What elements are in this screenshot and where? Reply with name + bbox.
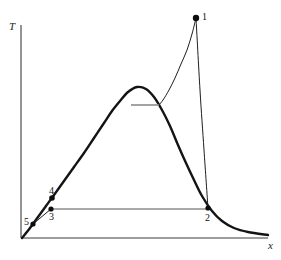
state-point-label-3: 3 xyxy=(49,212,54,222)
line-1-to-2 xyxy=(196,18,208,208)
plot-canvas xyxy=(0,0,281,260)
axes-group xyxy=(21,25,268,238)
state-point-label-1: 1 xyxy=(202,12,207,22)
curve-1-to-tieline xyxy=(159,18,196,105)
state-point-label-4: 4 xyxy=(49,186,54,196)
state-point-label-5: 5 xyxy=(24,217,29,227)
state-point-markers xyxy=(30,15,210,227)
state-point-marker-5 xyxy=(30,221,35,226)
state-point-label-2: 2 xyxy=(205,213,210,223)
y-axis-label: T xyxy=(9,21,15,32)
state-point-marker-1 xyxy=(193,15,199,21)
curve-coexistence-dome xyxy=(22,87,268,238)
state-point-marker-2 xyxy=(205,205,210,210)
series-group xyxy=(22,18,268,238)
x-axis-label: x xyxy=(268,240,273,251)
state-point-marker-4 xyxy=(49,195,55,201)
phase-diagram-figure: T x 1 2 3 4 5 xyxy=(0,0,281,260)
